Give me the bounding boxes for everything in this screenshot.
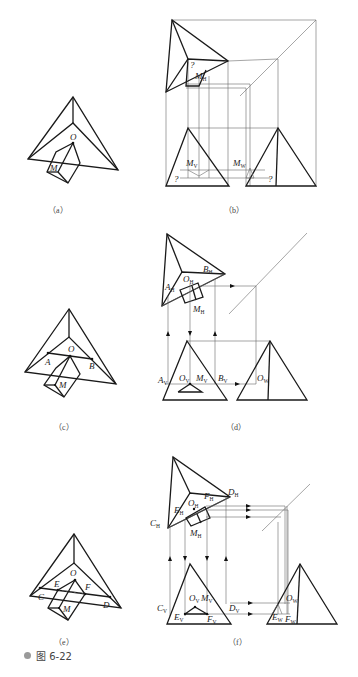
caption-c: （c） bbox=[54, 423, 74, 432]
label-M: M bbox=[62, 604, 71, 614]
figure-caption: 图 6-22 bbox=[24, 648, 72, 663]
label-MW: MW bbox=[232, 158, 247, 169]
label-DV: DV bbox=[228, 603, 240, 614]
caption-e: （e） bbox=[54, 638, 74, 647]
caption-a: （a） bbox=[48, 206, 68, 215]
label-DH: DH bbox=[227, 487, 239, 498]
label-FV: FV bbox=[206, 614, 217, 625]
label-OH: OH bbox=[183, 274, 194, 285]
label-OV: OV bbox=[179, 373, 190, 384]
label-OH: OH bbox=[188, 498, 199, 509]
label-MV: MV bbox=[185, 158, 198, 169]
panel-d-diagram: AH BH OH MH AV OV MV BV OW （d） bbox=[157, 233, 307, 432]
label-C: C bbox=[38, 592, 45, 602]
label-FH: FH bbox=[203, 491, 214, 502]
label-M: M bbox=[58, 380, 67, 390]
panel-f-diagram: CH EH OH FH DH MH CV EV OV bbox=[150, 457, 337, 647]
figure-6-22: O M （a） ? MH MV ? MW ? （ bbox=[0, 0, 358, 677]
label-MH: MH bbox=[189, 528, 202, 539]
label-CH: CH bbox=[150, 518, 160, 529]
label-question-v: ? bbox=[174, 174, 179, 184]
bullet-icon bbox=[24, 652, 31, 659]
label-CV: CV bbox=[157, 603, 167, 614]
label-question-w: ? bbox=[268, 174, 273, 184]
label-O: O bbox=[68, 344, 75, 354]
panel-e-diagram: O E F C D M （e） bbox=[30, 534, 121, 647]
panel-c-diagram: O A B M （c） bbox=[25, 309, 116, 432]
panel-b-diagram: ? MH MV ? MW ? （b） bbox=[166, 20, 316, 215]
label-D: D bbox=[102, 600, 110, 610]
caption-b: （b） bbox=[224, 206, 244, 215]
caption-f: （f） bbox=[228, 638, 247, 647]
label-AV: AV bbox=[157, 375, 168, 386]
label-FW: FW bbox=[284, 614, 297, 625]
panel-a-diagram: O M （a） bbox=[28, 97, 118, 215]
label-O: O bbox=[70, 568, 77, 578]
caption-d: （d） bbox=[226, 423, 246, 432]
label-MH: MH bbox=[192, 304, 205, 315]
label-O: O bbox=[70, 132, 77, 142]
label-MV: MV bbox=[195, 373, 208, 384]
label-OV: OV bbox=[189, 593, 200, 604]
label-question-h: ? bbox=[190, 60, 195, 70]
label-BH: BH bbox=[203, 264, 213, 275]
label-OW: OW bbox=[257, 373, 270, 384]
label-EV: EV bbox=[173, 612, 184, 623]
label-F: F bbox=[84, 582, 91, 592]
label-B: B bbox=[89, 361, 95, 371]
label-AH: AH bbox=[164, 282, 175, 293]
label-BV: BV bbox=[218, 373, 228, 384]
label-E: E bbox=[53, 579, 60, 589]
figure-number: 图 6-22 bbox=[36, 648, 72, 663]
label-OW: OW bbox=[286, 593, 299, 604]
label-M: M bbox=[49, 163, 58, 173]
label-A: A bbox=[44, 357, 51, 367]
